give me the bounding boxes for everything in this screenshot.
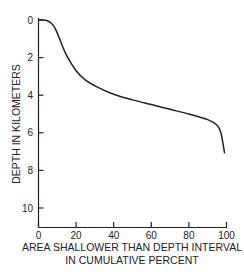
- y-tick-label: 2: [27, 52, 33, 63]
- y-tick-label: 4: [27, 90, 33, 101]
- hypsometric-chart: 0246810 020406080100 DEPTH IN KILOMETERS…: [0, 0, 244, 272]
- x-tick-label: 60: [146, 230, 158, 241]
- y-tick-label: 10: [22, 203, 34, 214]
- x-axis-title-line2: IN CUMULATIVE PERCENT: [65, 254, 199, 266]
- y-ticks: 0246810: [22, 15, 44, 214]
- x-tick-label: 20: [71, 230, 83, 241]
- y-tick-label: 6: [27, 127, 33, 138]
- x-axis-title-line1: AREA SHALLOWER THAN DEPTH INTERVAL: [22, 241, 242, 253]
- y-tick-label: 8: [27, 165, 33, 176]
- x-tick-label: 0: [36, 230, 42, 241]
- x-tick-label: 40: [108, 230, 120, 241]
- x-tick-label: 80: [183, 230, 195, 241]
- y-axis-title: DEPTH IN KILOMETERS: [10, 64, 22, 184]
- y-tick-label: 0: [27, 15, 33, 26]
- axes: [39, 18, 228, 228]
- x-ticks: 020406080100: [36, 222, 236, 241]
- depth-curve: [39, 20, 225, 153]
- x-tick-label: 100: [218, 230, 235, 241]
